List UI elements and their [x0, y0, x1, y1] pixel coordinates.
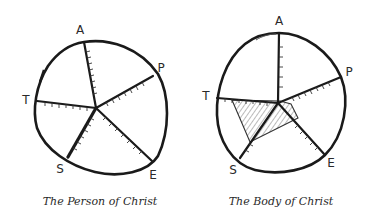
axis-t-label: T	[201, 89, 210, 103]
outline-circle	[35, 41, 167, 174]
axis-p-label: P	[345, 65, 352, 79]
axis-a-line	[84, 42, 96, 108]
axis-p-line	[278, 77, 341, 103]
caption-person-of-christ: The Person of Christ	[43, 195, 158, 208]
axis-e-label: E	[327, 156, 335, 170]
axis-s-label: S	[56, 162, 64, 176]
axis-s-label: S	[229, 163, 237, 177]
axis-a-label: A	[76, 23, 85, 37]
diagram-canvas: A P E S T The Person of Christ	[0, 0, 369, 223]
caption-body-of-christ: The Body of Christ	[229, 195, 334, 208]
axis-s-line	[68, 108, 96, 157]
axis-e-label: E	[149, 168, 157, 182]
axis-t-line	[37, 101, 96, 108]
axis-p-label: P	[157, 61, 164, 75]
axis-a-line	[278, 33, 279, 103]
axis-t-label: T	[21, 93, 30, 107]
person-of-christ-diagram: A P E S T The Person of Christ	[21, 23, 167, 209]
body-of-christ-diagram: A P E S T The Body of Christ	[201, 14, 352, 209]
axis-a-label: A	[275, 14, 284, 28]
